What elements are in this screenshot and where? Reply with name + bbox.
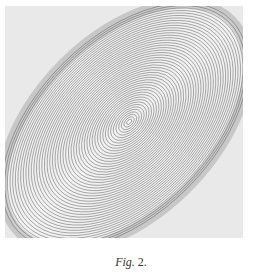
caption-label: Fig. [115,255,135,269]
fringe-pattern [5,6,243,238]
caption-number: 2. [138,255,147,269]
figure-caption: Fig. 2. [0,255,262,270]
fringe-group [5,6,243,238]
figure-photo [5,6,243,238]
